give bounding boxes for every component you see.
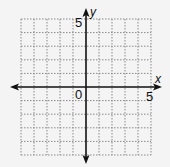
y-axis-tick-label: 5 bbox=[75, 15, 82, 30]
origin-label: 0 bbox=[75, 87, 82, 102]
x-axis-tick-label: 5 bbox=[146, 89, 153, 104]
y-axis-label: y bbox=[89, 5, 97, 19]
coordinate-plane: 5 y x 5 0 bbox=[0, 0, 170, 167]
labels-layer: 5 y x 5 0 bbox=[0, 0, 170, 167]
x-axis-label: x bbox=[154, 72, 162, 86]
